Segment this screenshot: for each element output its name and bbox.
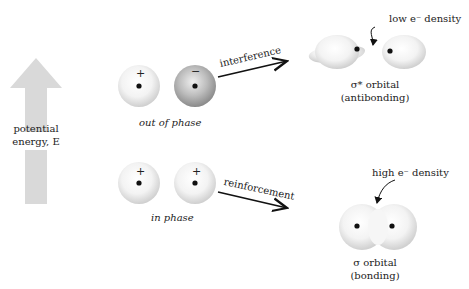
out-of-phase-right-sign: − xyxy=(191,65,200,78)
antibonding-title: σ* orbital xyxy=(330,78,420,91)
high-density-annotation: high e⁻ density xyxy=(372,167,449,178)
energy-axis-label: potential energy, E xyxy=(4,122,68,148)
low-density-annotation: low e⁻ density xyxy=(389,13,461,24)
antibonding-orbital xyxy=(309,35,426,69)
diagram-canvas xyxy=(0,0,469,289)
bonding-orbital xyxy=(339,204,417,250)
bonding-subtitle: (bonding) xyxy=(335,269,415,282)
in-phase-left-sign: + xyxy=(136,165,145,178)
energy-label-line1: potential xyxy=(4,122,68,135)
bonding-title: σ orbital xyxy=(335,256,415,269)
in-phase-orbitals xyxy=(118,162,216,204)
out-of-phase-label: out of phase xyxy=(139,117,201,128)
bonding-caption: σ orbital (bonding) xyxy=(335,256,415,282)
out-of-phase-left-sign: + xyxy=(136,67,145,80)
low-density-pointer-icon xyxy=(371,27,375,45)
in-phase-right-sign: + xyxy=(192,165,201,178)
out-of-phase-orbitals xyxy=(118,65,216,107)
antibonding-subtitle: (antibonding) xyxy=(330,91,420,104)
in-phase-label: in phase xyxy=(151,212,194,223)
antibonding-caption: σ* orbital (antibonding) xyxy=(330,78,420,104)
energy-label-line2: energy, E xyxy=(4,135,68,148)
high-density-pointer-icon xyxy=(377,180,395,203)
